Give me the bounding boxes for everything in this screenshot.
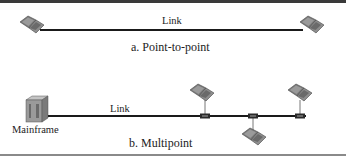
laptop-icon — [288, 84, 312, 101]
link-label-a: Link — [162, 15, 182, 26]
tap-connector-icon — [200, 114, 210, 119]
mainframe-icon — [26, 96, 48, 122]
link-label-b: Link — [110, 103, 130, 114]
caption-point-to-point: a. Point-to-point — [131, 40, 210, 55]
laptop-icon — [190, 84, 214, 101]
caption-multipoint: b. Multipoint — [129, 136, 192, 151]
tap-connector-icon — [248, 114, 258, 119]
bottom-border — [0, 154, 346, 156]
mainframe-label: Mainframe — [12, 124, 59, 135]
tap-connector-icon — [295, 114, 305, 119]
laptop-icon — [242, 128, 266, 145]
laptop-icon — [300, 16, 324, 33]
